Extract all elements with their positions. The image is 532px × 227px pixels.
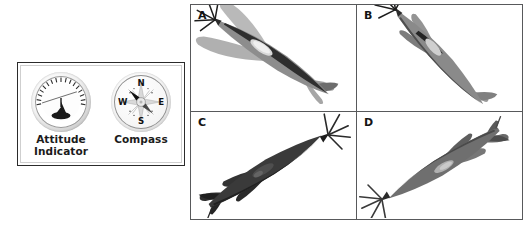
instrument-legend-box: Attitude Indicator <box>17 62 185 166</box>
aircraft-image-b <box>357 5 522 111</box>
panel-d[interactable]: D <box>357 112 522 218</box>
compass-label-east: E <box>158 98 164 107</box>
panel-c-label: C <box>198 117 206 129</box>
compass-label-north: N <box>137 79 144 88</box>
panel-c[interactable]: C <box>191 112 356 218</box>
aircraft-image-a <box>191 5 356 111</box>
aircraft-image-c <box>191 112 356 218</box>
panel-b-label: B <box>364 10 372 22</box>
compass-label-west: W <box>118 98 127 107</box>
panel-b[interactable]: B <box>357 5 522 111</box>
attitude-indicator-label-line1: Attitude <box>24 134 98 146</box>
compass-label-south: S <box>138 117 144 126</box>
compass-face: N E S W <box>114 75 168 129</box>
attitude-indicator-item: Attitude Indicator <box>24 72 98 157</box>
compass-label-line1: Compass <box>104 134 178 146</box>
compass-label: Compass <box>104 134 178 146</box>
attitude-indicator-ring <box>35 76 87 128</box>
panel-a[interactable]: A <box>191 5 356 111</box>
aircraft-panel-grid: A <box>190 4 523 220</box>
panel-a-label: A <box>198 10 207 22</box>
attitude-indicator-icon <box>31 72 91 132</box>
aircraft-image-d <box>357 112 522 218</box>
compass-icon: N E S W <box>111 72 171 132</box>
attitude-indicator-label: Attitude Indicator <box>24 134 98 157</box>
panel-d-label: D <box>364 117 373 129</box>
attitude-indicator-aircraft-symbol <box>35 76 87 128</box>
compass-item: N E S W Compass <box>104 72 178 146</box>
attitude-indicator-label-line2: Indicator <box>24 146 98 158</box>
